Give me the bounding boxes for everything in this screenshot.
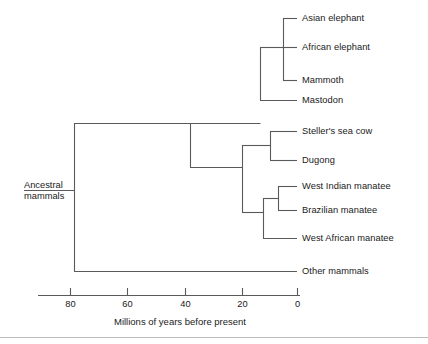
- taxon-label-west-indian-manatee: West Indian manatee: [302, 181, 391, 191]
- bottom-divider: [0, 337, 428, 338]
- taxon-label-mastodon: Mastodon: [302, 95, 343, 105]
- root-label: Ancestral mammals: [24, 180, 74, 201]
- taxon-label-dugong: Dugong: [302, 155, 335, 165]
- taxon-label-brazilian-manatee: Brazilian manatee: [302, 205, 377, 215]
- taxon-label-other-mammals: Other mammals: [302, 266, 369, 276]
- taxon-label-african-elephant: African elephant: [302, 42, 370, 52]
- axis-tick-label-0: 0: [285, 299, 311, 309]
- axis-title: Millions of years before present: [0, 316, 360, 327]
- taxon-label-stellers-sea-cow: Steller's sea cow: [302, 126, 372, 136]
- phylogenetic-tree-figure: Ancestral mammals Asian elephant African…: [0, 0, 428, 344]
- taxon-label-west-african-manatee: West African manatee: [302, 233, 394, 243]
- root-label-line-2: mammals: [24, 191, 74, 202]
- taxon-label-asian-elephant: Asian elephant: [302, 13, 364, 23]
- axis-tick-label-80: 80: [58, 299, 84, 309]
- axis-tick-label-20: 20: [230, 299, 256, 309]
- axis-tick-label-40: 40: [173, 299, 199, 309]
- taxon-label-mammoth: Mammoth: [302, 75, 344, 85]
- axis-tick-label-60: 60: [115, 299, 141, 309]
- root-label-line-1: Ancestral: [24, 180, 74, 191]
